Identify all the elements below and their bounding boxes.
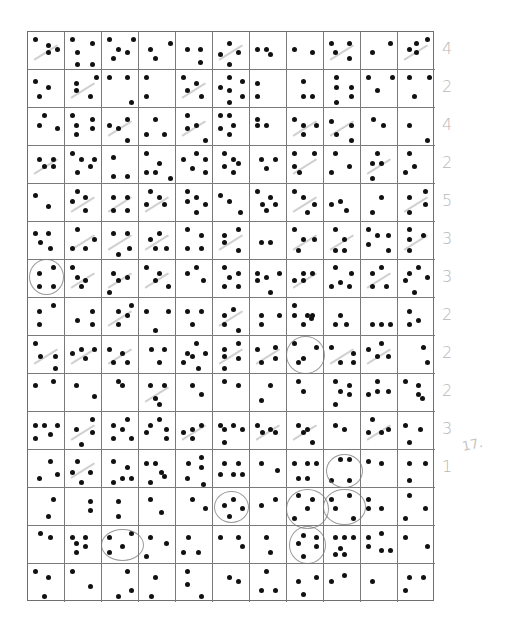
- row-tally: 4: [442, 115, 452, 134]
- pip-dot: [240, 544, 245, 549]
- die-cell: [213, 526, 250, 564]
- pip-dot: [111, 195, 116, 200]
- row-tally: 2: [442, 305, 452, 324]
- pip-dot: [338, 280, 343, 285]
- pip-dot: [222, 366, 227, 371]
- die-cell: [102, 488, 139, 526]
- die-cell: [250, 32, 287, 70]
- pip-dot: [301, 278, 306, 283]
- pip-dot: [74, 383, 79, 388]
- pip-dot: [168, 176, 173, 181]
- pip-dot: [403, 278, 408, 283]
- row-tally: 2: [442, 153, 452, 172]
- pip-dot: [366, 392, 371, 397]
- die-cell: [287, 70, 324, 108]
- pip-dot: [125, 569, 130, 574]
- pip-dot: [107, 347, 112, 352]
- pip-dot: [351, 535, 356, 540]
- pip-dot: [196, 366, 201, 371]
- pip-dot: [33, 341, 38, 346]
- pip-dot: [46, 85, 51, 90]
- die-cell: [213, 146, 250, 184]
- die-cell: [139, 32, 176, 70]
- row-tally: 1: [442, 457, 452, 476]
- pip-dot: [203, 170, 208, 175]
- pip-dot: [414, 50, 419, 55]
- die-cell: [102, 260, 139, 298]
- pip-dot: [92, 394, 97, 399]
- pip-dot: [33, 37, 38, 42]
- pencil-circle-mark: [286, 336, 325, 374]
- pip-dot: [51, 497, 56, 502]
- die-cell: [324, 184, 361, 222]
- pip-dot: [227, 75, 232, 80]
- pip-dot: [218, 126, 223, 131]
- pip-dot: [199, 465, 204, 470]
- pip-dot: [371, 117, 376, 122]
- pip-dot: [74, 541, 79, 546]
- pip-dot: [260, 202, 265, 207]
- pencil-circle-mark: [323, 489, 366, 525]
- pip-dot: [379, 195, 384, 200]
- pip-dot: [333, 248, 338, 253]
- pip-dot: [83, 195, 88, 200]
- die-cell: [176, 108, 213, 146]
- die-cell: [213, 336, 250, 374]
- pip-dot: [259, 398, 264, 403]
- pip-dot: [168, 41, 173, 46]
- die-cell: [361, 222, 398, 260]
- pip-dot: [227, 199, 232, 204]
- pip-dot: [240, 94, 245, 99]
- pip-dot: [111, 436, 116, 441]
- die-cell: [287, 336, 324, 374]
- pip-dot: [301, 123, 306, 128]
- pip-dot: [196, 550, 201, 555]
- die-cell: [324, 526, 361, 564]
- pip-dot: [423, 461, 428, 466]
- pip-dot: [53, 366, 58, 371]
- pip-dot: [255, 189, 260, 194]
- pip-dot: [292, 461, 297, 466]
- pip-dot: [46, 43, 51, 48]
- pip-dot: [116, 126, 121, 131]
- die-cell: [28, 564, 65, 602]
- pip-dot: [388, 548, 393, 553]
- pip-dot: [149, 347, 154, 352]
- pip-dot: [190, 427, 195, 432]
- pip-dot: [70, 351, 75, 356]
- pip-dot: [347, 284, 352, 289]
- die-cell: [361, 260, 398, 298]
- pip-dot: [227, 575, 232, 580]
- pip-dot: [301, 389, 306, 394]
- pip-dot: [203, 351, 208, 356]
- die-cell: [213, 412, 250, 450]
- die-cell: [250, 260, 287, 298]
- die-cell: [139, 526, 176, 564]
- pip-dot: [218, 193, 223, 198]
- pip-dot: [144, 554, 149, 559]
- pip-dot: [264, 569, 269, 574]
- die-cell: [250, 298, 287, 336]
- pip-dot: [333, 535, 338, 540]
- pip-dot: [83, 544, 88, 549]
- pip-dot: [403, 423, 408, 428]
- pip-dot: [366, 347, 371, 352]
- pip-dot: [185, 246, 190, 251]
- pip-dot: [194, 195, 199, 200]
- pip-dot: [259, 461, 264, 466]
- pip-dot: [194, 210, 199, 215]
- pip-dot: [42, 164, 47, 169]
- die-cell: [324, 298, 361, 336]
- die-cell: [250, 70, 287, 108]
- die-cell: [250, 412, 287, 450]
- die-cell: [139, 374, 176, 412]
- die-cell: [65, 526, 102, 564]
- die-cell: [102, 146, 139, 184]
- pip-dot: [75, 189, 80, 194]
- pip-dot: [194, 265, 199, 270]
- pip-dot: [120, 383, 125, 388]
- pip-dot: [314, 461, 319, 466]
- pip-dot: [194, 341, 199, 346]
- pip-dot: [255, 94, 260, 99]
- pip-dot: [292, 151, 297, 156]
